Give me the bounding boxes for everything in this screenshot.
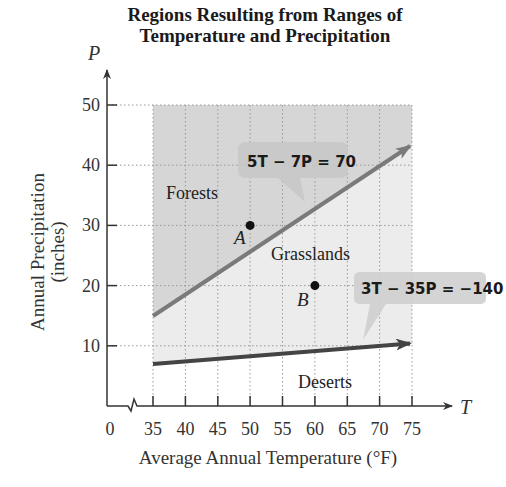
point-a — [246, 221, 255, 230]
x-tick-50: 50 — [241, 419, 259, 439]
x-tick-65: 65 — [338, 419, 356, 439]
y-tick-30: 30 — [82, 215, 100, 235]
x-tick-40: 40 — [176, 419, 194, 439]
point-b-label: B — [297, 289, 309, 310]
x-tick-55: 55 — [274, 419, 292, 439]
grasslands-label: Grasslands — [271, 244, 350, 264]
y-tick-10: 10 — [82, 336, 100, 356]
y-tick-50: 50 — [82, 95, 100, 115]
x-tick-60: 60 — [306, 419, 324, 439]
point-b — [310, 281, 319, 290]
x-tick-45: 45 — [209, 419, 227, 439]
y-var-label: P — [87, 42, 100, 64]
y-axis-title: Annual Precipitation (inches) — [27, 173, 69, 331]
x-tick-70: 70 — [371, 419, 389, 439]
y-axis — [107, 70, 117, 406]
chart: P T 50 40 30 20 10 0 35 40 45 50 55 60 6… — [0, 0, 506, 487]
point-a-label: A — [232, 227, 246, 248]
y-axis-title-line1: Annual Precipitation — [27, 173, 48, 331]
y-tick-40: 40 — [82, 155, 100, 175]
x-tick-35: 35 — [144, 419, 162, 439]
eq2-label: 3T − 35P = −140 — [361, 280, 503, 298]
x-axis-title: Average Annual Temperature (°F) — [139, 447, 397, 469]
y-tick-20: 20 — [82, 276, 100, 296]
x-tick-labels: 0 35 40 45 50 55 60 65 70 75 — [106, 419, 422, 439]
eq1-label: 5T − 7P = 70 — [247, 153, 356, 171]
x-tick-0: 0 — [106, 419, 115, 439]
x-tick-75: 75 — [403, 419, 421, 439]
y-axis-title-line2: (inches) — [47, 221, 69, 282]
y-tick-labels: 50 40 30 20 10 — [82, 95, 100, 356]
x-var-label: T — [460, 396, 473, 418]
forests-label: Forests — [166, 183, 218, 203]
deserts-label: Deserts — [298, 372, 352, 392]
